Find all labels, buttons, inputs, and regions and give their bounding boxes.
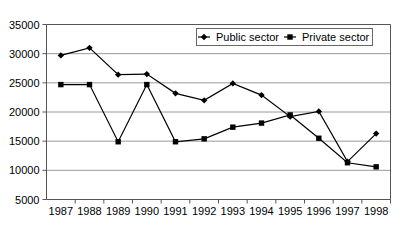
x-tick-label: 1993 xyxy=(221,205,245,217)
data-point-marker xyxy=(316,108,322,114)
y-tick-label: 35000 xyxy=(9,19,40,31)
x-tick-label: 1995 xyxy=(278,205,302,217)
series-2 xyxy=(58,82,379,170)
series-line xyxy=(61,48,376,162)
data-point-marker xyxy=(144,71,150,77)
data-point-marker xyxy=(230,80,236,86)
tick-marks-group xyxy=(43,25,391,204)
chart-container: 3500030000250002000015000100005000 19871… xyxy=(0,0,402,227)
data-point-marker xyxy=(87,82,92,87)
y-tick-label: 15000 xyxy=(9,135,40,147)
data-point-marker xyxy=(316,136,321,141)
data-point-marker xyxy=(287,112,292,117)
y-tick-label: 5000 xyxy=(15,194,39,206)
data-series-group xyxy=(58,45,380,170)
chart-legend: Public sectorPrivate sector xyxy=(197,29,373,46)
legend-label: Public sector xyxy=(216,31,279,43)
y-tick-label: 25000 xyxy=(9,77,40,89)
data-point-marker xyxy=(259,120,264,125)
y-tick-label: 10000 xyxy=(9,164,40,176)
data-point-marker xyxy=(230,124,235,129)
x-axis-tick-labels: 1987198819891990199119921993199419951996… xyxy=(49,205,389,217)
x-tick-label: 1989 xyxy=(106,205,130,217)
data-point-marker xyxy=(58,82,63,87)
y-tick-label: 20000 xyxy=(9,106,40,118)
y-axis-tick-labels: 3500030000250002000015000100005000 xyxy=(9,19,40,206)
data-point-marker xyxy=(201,136,206,141)
legend-label: Private sector xyxy=(302,31,370,43)
x-tick-label: 1990 xyxy=(135,205,159,217)
data-point-marker xyxy=(115,139,120,144)
legend-swatch-marker xyxy=(287,34,292,39)
x-tick-label: 1992 xyxy=(192,205,216,217)
data-point-marker xyxy=(172,90,178,96)
x-tick-label: 1994 xyxy=(249,205,273,217)
series-1 xyxy=(58,45,380,165)
data-point-marker xyxy=(373,164,378,169)
x-tick-label: 1997 xyxy=(335,205,359,217)
data-point-marker xyxy=(144,82,149,87)
line-chart: 3500030000250002000015000100005000 19871… xyxy=(0,0,402,227)
data-point-marker xyxy=(201,97,207,103)
x-tick-label: 1988 xyxy=(77,205,101,217)
x-tick-label: 1987 xyxy=(49,205,73,217)
x-tick-label: 1991 xyxy=(163,205,187,217)
x-tick-label: 1998 xyxy=(364,205,388,217)
x-tick-label: 1996 xyxy=(307,205,331,217)
data-point-marker xyxy=(173,139,178,144)
y-tick-label: 30000 xyxy=(9,48,40,60)
series-line xyxy=(61,85,376,167)
data-point-marker xyxy=(345,160,350,165)
gridlines-group xyxy=(47,54,391,171)
